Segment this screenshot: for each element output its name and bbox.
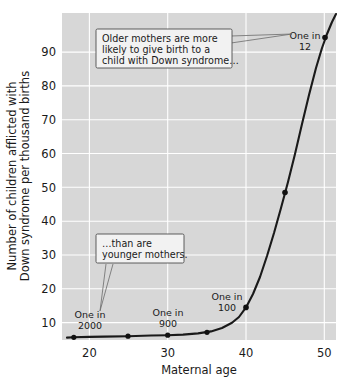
annotation-one-in-2000: One in 2000 [74, 309, 105, 331]
upper-callout: Older mothers are more likely to give bi… [96, 29, 239, 68]
y-tick-label: 70 [41, 113, 56, 127]
x-tick-label: 50 [317, 346, 332, 360]
data-marker [204, 330, 209, 335]
lower-callout-line2: younger mothers. [102, 249, 188, 260]
y-tick-label: 10 [41, 316, 56, 330]
x-axis-tick-labels: 20 30 40 50 [82, 346, 332, 360]
down-syndrome-incidence-chart: 10 20 30 40 50 60 70 80 90 20 30 40 50 M… [0, 0, 340, 379]
upper-callout-line1: Older mothers are more [102, 33, 218, 44]
y-axis-tick-labels: 10 20 30 40 50 60 70 80 90 [41, 45, 56, 330]
y-tick-label: 60 [41, 147, 56, 161]
lower-callout: …than are younger mothers. [96, 234, 188, 263]
x-tick-label: 20 [82, 346, 97, 360]
x-tick-label: 30 [160, 346, 175, 360]
annotation-one-in-12-line1: One in [289, 30, 320, 41]
data-marker [165, 333, 170, 338]
y-tick-label: 90 [41, 45, 56, 59]
data-marker [282, 190, 288, 196]
annotation-one-in-2000-line1: One in [74, 309, 105, 320]
y-tick-label: 80 [41, 79, 56, 93]
data-marker [322, 35, 328, 41]
y-tick-label: 30 [41, 248, 56, 262]
data-marker [71, 335, 76, 340]
x-axis-title: Maternal age [161, 363, 237, 377]
upper-callout-line3: child with Down syndrome… [102, 55, 239, 66]
annotation-one-in-900-line1: One in [152, 307, 183, 318]
annotation-one-in-100-line1: One in [211, 291, 242, 302]
x-tick-label: 40 [239, 346, 254, 360]
y-tick-label: 50 [41, 181, 56, 195]
y-tick-label: 40 [41, 214, 56, 228]
annotation-one-in-900-line2: 900 [159, 318, 177, 329]
annotation-one-in-12-line2: 12 [299, 41, 311, 52]
data-marker [125, 334, 130, 339]
chart-canvas: 10 20 30 40 50 60 70 80 90 20 30 40 50 M… [0, 0, 340, 379]
y-tick-label: 20 [41, 282, 56, 296]
upper-callout-line2: likely to give birth to a [102, 44, 210, 55]
annotation-one-in-2000-line2: 2000 [78, 320, 102, 331]
y-axis-title: Number of children afflicted with Down s… [5, 71, 32, 281]
annotation-one-in-100-line2: 100 [218, 302, 236, 313]
y-axis-title-line2: Down syndrome per thousand births [18, 71, 32, 281]
y-axis-title-line1: Number of children afflicted with [5, 81, 19, 270]
lower-callout-line1: …than are [102, 238, 152, 249]
data-marker [243, 305, 249, 311]
